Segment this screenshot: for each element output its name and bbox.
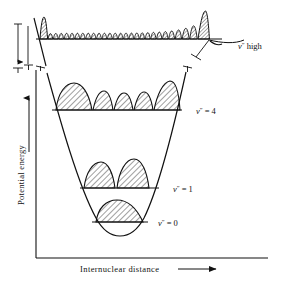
tick-bracket-upper [24, 65, 33, 70]
level-v1: v″= 1 [80, 159, 193, 194]
level-v4: v″= 4 [52, 81, 217, 116]
level-label-v-high-primes: ″ [242, 41, 245, 49]
lobe-v4-1 [56, 83, 92, 110]
level-label-v4-primes: ″ [200, 106, 203, 114]
level-label-v1-primes: ″ [177, 184, 180, 192]
wavefunction-lobes-v-high-middle [48, 26, 197, 39]
wavefunction-lobe-v-high-left [40, 17, 48, 39]
diagram-canvas: Potential energy Internuclear distance [0, 0, 289, 286]
level-label-v0-value: = 0 [167, 218, 178, 228]
level-label-v4: v″= 4 [196, 106, 217, 116]
tick-bracket-v-high [191, 54, 201, 60]
level-label-v1-value: = 1 [182, 184, 193, 194]
well-top-ticks [183, 66, 192, 72]
lobe-v4-5 [154, 81, 180, 110]
tick-bracket-left [13, 68, 23, 73]
level-v-high: v″high [34, 11, 263, 66]
wavefunction-lobes-v1 [84, 159, 149, 188]
level-label-v-high: v″high [238, 41, 263, 51]
lobe-v1-2 [117, 159, 149, 188]
lobe-v4-4 [134, 92, 153, 110]
level-label-v4-value: = 4 [205, 106, 217, 116]
lobe-v4-3 [114, 93, 133, 110]
lobe-v1-1 [84, 162, 115, 188]
potential-energy-diagram: Potential energy Internuclear distance [0, 0, 289, 286]
wavefunction-lobe-v-high-right [198, 11, 209, 39]
x-axis-label: Internuclear distance [80, 264, 159, 274]
y-axis-label: Potential energy [16, 144, 26, 205]
lobe-v4-2 [93, 91, 113, 110]
tick-stem-v-high [196, 40, 209, 57]
wavefunction-lobes-v4 [56, 81, 180, 110]
level-label-v0: v″= 0 [158, 218, 178, 228]
level-label-v0-primes: ″ [162, 218, 165, 226]
tick-bracket-v4-right [183, 66, 192, 72]
level-v0: v″= 0 [92, 200, 178, 228]
level-label-v-high-value: high [247, 41, 263, 51]
level-label-v1: v″= 1 [173, 184, 193, 194]
lobe-v0-1 [96, 200, 143, 222]
